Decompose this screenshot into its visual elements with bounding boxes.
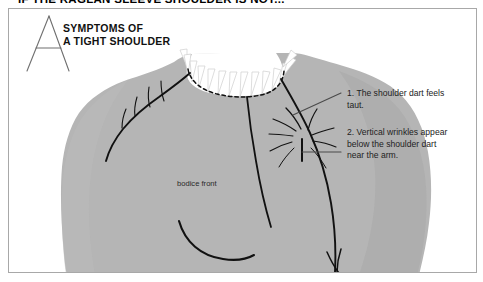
figure-frame: SYMPTOMS OF A TIGHT SHOULDER bodice fron… [8, 8, 477, 273]
page-header-title: IF THE RAGLAN SLEEVE SHOULDER IS NOT... [18, 0, 285, 5]
bodice-front-label: bodice front [177, 179, 217, 188]
section-marker-letter-a [27, 16, 69, 71]
callout-shoulder-dart-taut: 1. The shoulder dart feels taut. [347, 88, 477, 111]
callout-vertical-wrinkles: 2. Vertical wrinkles appear below the sh… [347, 127, 477, 162]
page-header: IF THE RAGLAN SLEEVE SHOULDER IS NOT... [0, 0, 483, 7]
